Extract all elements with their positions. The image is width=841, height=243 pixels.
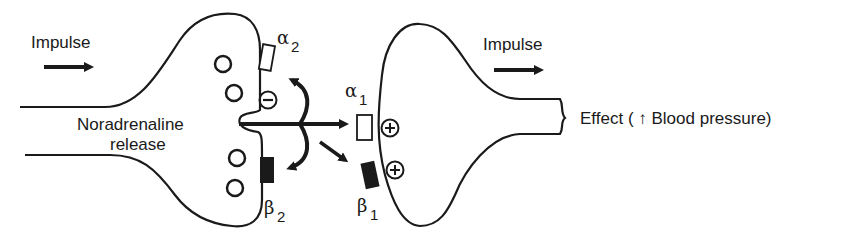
vesicle-icon — [227, 180, 243, 196]
beta1-arrow — [320, 142, 345, 160]
svg-text:β: β — [264, 197, 274, 218]
beta2-receptor-icon — [260, 157, 274, 183]
vesicle-icon — [226, 85, 242, 101]
svg-text:β: β — [357, 195, 367, 216]
alpha2-label: α 2 — [277, 27, 299, 55]
alpha1-receptor-icon — [357, 115, 372, 140]
svg-text:2: 2 — [277, 208, 285, 225]
svg-text:2: 2 — [291, 38, 299, 55]
feedback-arrow-alpha2 — [292, 80, 307, 124]
impulse-label-left: Impulse — [31, 33, 91, 52]
beta2-label: β 2 — [264, 197, 285, 225]
release-label-line1: Noradrenaline — [77, 115, 184, 134]
postsynaptic-cell — [379, 24, 565, 226]
effect-label: Effect ( ↑ Blood pressure) — [580, 109, 772, 128]
impulse-label-right: Impulse — [483, 35, 543, 54]
alpha1-label: α 1 — [345, 80, 367, 108]
beta1-label: β 1 — [357, 195, 378, 223]
beta1-receptor-icon — [360, 161, 379, 189]
feedback-arrow-beta2 — [290, 124, 307, 168]
svg-text:α: α — [345, 80, 357, 101]
synapse-diagram: Impulse Impulse Noradrenaline release Ef… — [0, 0, 841, 243]
release-label-line2: release — [110, 135, 166, 154]
stimulate-sign-icon — [382, 120, 399, 137]
stimulate-sign-icon — [387, 162, 404, 179]
svg-text:α: α — [277, 27, 289, 48]
vesicle-icon — [215, 56, 231, 72]
svg-text:1: 1 — [370, 206, 378, 223]
inhibit-sign-icon — [260, 92, 277, 109]
vesicle-icon — [229, 150, 245, 166]
alpha2-receptor-icon — [259, 44, 275, 71]
svg-text:1: 1 — [359, 91, 367, 108]
